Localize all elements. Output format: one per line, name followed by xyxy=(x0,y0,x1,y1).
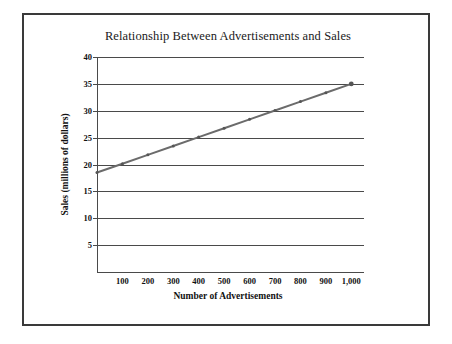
data-point-marker xyxy=(248,118,251,121)
y-tick-label: 15 xyxy=(84,186,93,196)
x-axis-title: Number of Advertisements xyxy=(24,291,432,301)
data-point-marker xyxy=(96,171,99,174)
x-tick-label: 300 xyxy=(167,276,180,286)
plot-area: 510152025303540 100200300400500600700800… xyxy=(97,57,364,272)
data-point-marker xyxy=(223,127,226,130)
x-tick-label: 400 xyxy=(192,276,205,286)
x-tick-label: 600 xyxy=(243,276,256,286)
y-tick-label: 35 xyxy=(84,79,93,89)
data-point-marker xyxy=(299,100,302,103)
x-tick-label: 800 xyxy=(294,276,307,286)
data-point-marker xyxy=(197,136,200,139)
chart-page: Relationship Between Advertisements and … xyxy=(0,0,452,344)
data-point-marker xyxy=(121,162,124,165)
data-point-marker xyxy=(349,81,354,86)
chart-frame: Relationship Between Advertisements and … xyxy=(22,13,430,326)
x-tick-label: 900 xyxy=(319,276,332,286)
y-tick-label: 30 xyxy=(84,106,93,116)
x-tick-label: 500 xyxy=(218,276,231,286)
x-axis-line xyxy=(97,272,364,273)
y-tick-label: 20 xyxy=(84,160,93,170)
page-title: Relationship Between Advertisements and … xyxy=(24,29,432,44)
y-tick-label: 5 xyxy=(88,240,92,250)
data-point-marker xyxy=(146,153,149,156)
x-tick-label: 100 xyxy=(116,276,129,286)
y-tick-label: 25 xyxy=(84,133,93,143)
x-tick-label: 700 xyxy=(269,276,282,286)
y-tick-label: 40 xyxy=(84,52,93,62)
x-tick-label: 200 xyxy=(141,276,154,286)
y-axis-title: Sales (millions of dollars) xyxy=(60,57,74,272)
series-line-svg xyxy=(97,57,364,272)
data-point-marker xyxy=(324,91,327,94)
x-tick-label: 1,000 xyxy=(342,276,361,286)
data-point-marker xyxy=(274,109,277,112)
data-point-marker xyxy=(172,144,175,147)
y-tick-label: 10 xyxy=(84,213,93,223)
